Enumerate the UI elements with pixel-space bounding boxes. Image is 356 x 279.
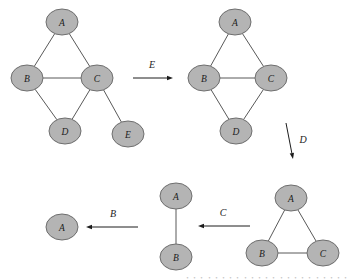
node-label: C (320, 249, 327, 259)
graph-edge-B-D (211, 90, 229, 120)
graph-edge-C-D (72, 90, 90, 120)
arrow-head (167, 76, 173, 80)
graph-node-D[interactable]: D (220, 118, 252, 144)
graph-node-A[interactable]: A (275, 185, 307, 211)
graph-node-D[interactable]: D (49, 118, 81, 144)
graph-after-eliminating-B: A (46, 214, 78, 240)
node-label: A (287, 194, 294, 204)
graph-edge-C-D (244, 89, 264, 119)
node-label: A (231, 18, 238, 28)
arrow-label-C: C (220, 207, 227, 218)
graph-after-eliminating-E: ABCD (188, 9, 287, 144)
graph-node-A[interactable]: A (160, 183, 192, 209)
node-label: E (124, 130, 131, 140)
node-label: D (232, 127, 240, 137)
graph-edge-A-C (242, 34, 263, 67)
graph-node-C[interactable]: C (307, 240, 339, 266)
graph-elimination-figure: ABCDEABCDABCABAEDCB (0, 0, 356, 279)
arrow-head (290, 153, 294, 159)
arrow-shaft (286, 123, 292, 153)
node-label: B (173, 253, 179, 263)
eliminate-E-arrow: E (133, 59, 173, 80)
graph-edge-A-C (69, 34, 90, 67)
graph-node-E[interactable]: E (112, 121, 144, 147)
arrow-label-B: B (110, 208, 116, 219)
figure-canvas: ABCDEABCDABCABAEDCB ・・・・・・・・・・・・・・・・・・・・… (0, 0, 356, 279)
graph-node-C[interactable]: C (255, 65, 287, 91)
graph-edge-A-B (211, 34, 229, 66)
arrow-label-D: D (298, 134, 307, 145)
node-label: B (201, 74, 207, 84)
graph-after-eliminating-D: ABC (246, 185, 339, 266)
eliminate-D-arrow: D (286, 123, 307, 159)
node-label: C (268, 74, 275, 84)
node-label: D (61, 127, 69, 137)
initial-graph: ABCDE (11, 9, 144, 147)
node-label: A (58, 223, 65, 233)
graph-after-eliminating-C: AB (160, 183, 192, 270)
node-label: B (24, 74, 30, 84)
node-label: A (58, 18, 65, 28)
arrow-head (86, 225, 92, 229)
graph-node-B[interactable]: B (160, 244, 192, 270)
graph-edge-C-E (104, 90, 122, 122)
graph-node-C[interactable]: C (81, 65, 113, 91)
arrow-head (198, 224, 204, 228)
node-label: A (172, 192, 179, 202)
graph-edge-B-D (35, 89, 57, 120)
cropped-caption-text: ・・・・・・・・・・・・・・・・・・・・・・・・・・・・ (184, 272, 352, 279)
graph-node-A[interactable]: A (46, 214, 78, 240)
node-label: C (94, 74, 101, 84)
arrow-label-E: E (148, 59, 155, 70)
graph-node-A[interactable]: A (46, 9, 78, 35)
graph-node-B[interactable]: B (246, 240, 278, 266)
graph-node-B[interactable]: B (188, 65, 220, 91)
eliminate-C-arrow: C (198, 207, 250, 228)
node-label: B (259, 249, 265, 259)
graph-edge-A-B (268, 210, 284, 241)
graph-node-B[interactable]: B (11, 65, 43, 91)
graph-edge-A-B (34, 34, 55, 67)
graph-edge-A-C (298, 210, 316, 242)
eliminate-B-arrow: B (86, 208, 138, 229)
graph-node-A[interactable]: A (219, 9, 251, 35)
